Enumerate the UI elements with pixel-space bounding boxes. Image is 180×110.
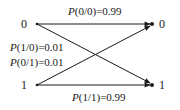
edge-label-0-0: P(0/0)=0.99 — [67, 5, 122, 18]
input-label-1: 1 — [21, 78, 27, 92]
edge-label-1-1: P(1/1)=0.99 — [71, 91, 126, 104]
output-label-0: 0 — [159, 17, 165, 31]
output-node-0 — [150, 22, 154, 26]
input-node-1 — [36, 84, 39, 87]
binary-channel-diagram: 0 1 0 1 P(0/0)=0.99 P(1/0)=0.01 P(0/1)=0… — [0, 0, 180, 110]
output-label-1: 1 — [159, 78, 165, 92]
edge-label-1-0: P(1/0)=0.01 — [9, 41, 64, 54]
output-node-1 — [150, 83, 154, 87]
edge-label-0-1: P(0/1)=0.01 — [9, 56, 64, 69]
input-label-0: 0 — [21, 17, 27, 31]
edge-0-to-1 — [37, 24, 150, 83]
input-node-0 — [36, 23, 39, 26]
